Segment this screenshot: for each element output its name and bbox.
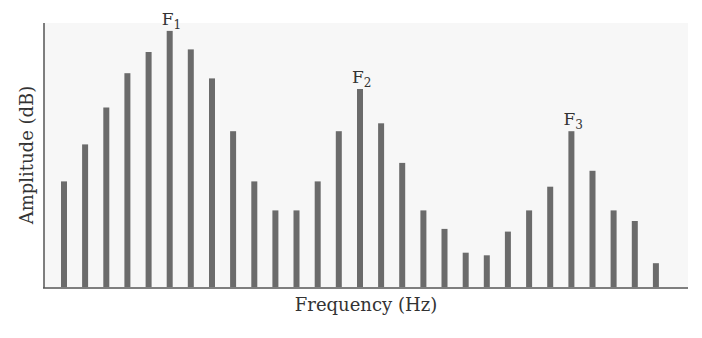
- bar: [653, 263, 659, 287]
- bar: [146, 52, 152, 287]
- bar: [124, 73, 130, 287]
- bar: [420, 210, 426, 287]
- bar: [82, 144, 88, 287]
- bar: [505, 232, 511, 287]
- bar: [61, 181, 67, 287]
- bar: [272, 210, 278, 287]
- bar: [484, 255, 490, 287]
- bar: [336, 131, 342, 287]
- formant-label: F1: [162, 9, 181, 32]
- bar: [568, 131, 574, 287]
- bar: [399, 163, 405, 287]
- bar: [315, 181, 321, 287]
- bar: [230, 131, 236, 287]
- bar: [209, 78, 215, 287]
- bar: [103, 108, 109, 288]
- bar: [357, 89, 363, 287]
- bar: [526, 210, 532, 287]
- bar: [590, 171, 596, 287]
- bar: [294, 210, 300, 287]
- bar: [611, 210, 617, 287]
- bar: [188, 49, 194, 287]
- y-axis-label: Amplitude (dB): [16, 86, 37, 225]
- bar: [167, 31, 173, 287]
- x-axis-label: Frequency (Hz): [295, 294, 437, 315]
- bar: [547, 187, 553, 287]
- bar: [463, 253, 469, 287]
- plot-area: F1F2F3: [0, 0, 702, 338]
- bar: [378, 123, 384, 287]
- bar: [442, 229, 448, 287]
- bar: [632, 221, 638, 287]
- bar: [251, 181, 257, 287]
